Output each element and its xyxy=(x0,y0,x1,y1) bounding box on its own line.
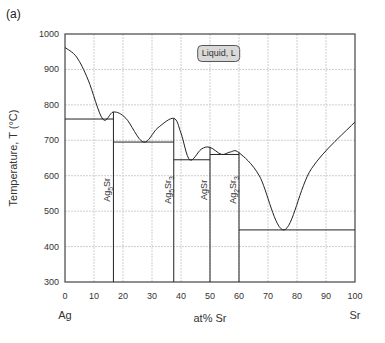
liquid-region-label: Liquid, L xyxy=(202,48,236,58)
compound-label: Ag5Sr xyxy=(102,178,114,202)
y-tick-label: 900 xyxy=(44,64,59,74)
y-axis-label: Temperature, T (°C) xyxy=(7,110,19,207)
x-axis-label: at% Sr xyxy=(193,312,226,324)
end-label-sr: Sr xyxy=(350,309,361,321)
x-tick-label: 80 xyxy=(292,291,302,301)
x-tick-label: 40 xyxy=(176,291,186,301)
y-tick-label: 600 xyxy=(44,171,59,181)
x-tick-label: 30 xyxy=(147,291,157,301)
x-tick-label: 100 xyxy=(347,291,362,301)
compound-label: Ag2Sr3 xyxy=(228,176,240,204)
y-tick-label: 800 xyxy=(44,100,59,110)
x-tick-label: 0 xyxy=(62,291,67,301)
x-tick-label: 10 xyxy=(89,291,99,301)
y-tick-label: 400 xyxy=(44,242,59,252)
y-tick-label: 1000 xyxy=(39,29,59,39)
x-tick-label: 20 xyxy=(118,291,128,301)
compound-label: AgSr xyxy=(199,180,209,200)
x-tick-label: 90 xyxy=(321,291,331,301)
y-tick-label: 500 xyxy=(44,206,59,216)
x-tick-label: 60 xyxy=(234,291,244,301)
x-tick-label: 70 xyxy=(263,291,273,301)
x-tick-label: 50 xyxy=(205,291,215,301)
end-label-ag: Ag xyxy=(58,309,71,321)
y-tick-label: 300 xyxy=(44,277,59,287)
compound-label: Ag5Sr3 xyxy=(163,176,175,204)
y-tick-label: 700 xyxy=(44,135,59,145)
phase-diagram-chart: 0102030405060708090100300400500600700800… xyxy=(0,0,385,343)
